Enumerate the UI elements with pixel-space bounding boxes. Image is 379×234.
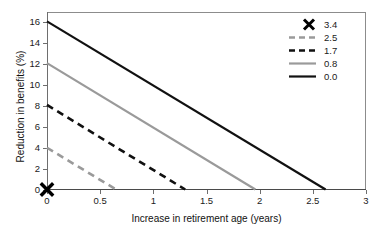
legend-label: 2.5 bbox=[324, 33, 337, 43]
series-line-0.8 bbox=[47, 63, 255, 189]
legend-item[interactable]: 0.0 bbox=[287, 70, 362, 83]
legend-item[interactable]: 2.5 bbox=[287, 31, 362, 44]
legend-x-marker-icon bbox=[287, 18, 317, 31]
series-line-0.0 bbox=[47, 21, 326, 189]
y-axis-title: Reduction in benefits (%) bbox=[15, 17, 26, 197]
legend-line-swatch bbox=[287, 70, 317, 83]
series-line-2.5 bbox=[47, 148, 116, 190]
chart-container: 00.511.522.530246810121416 Increase in r… bbox=[0, 0, 379, 234]
legend-item[interactable]: 0.8 bbox=[287, 57, 362, 70]
legend-line-swatch bbox=[287, 57, 317, 70]
legend-item[interactable]: 1.7 bbox=[287, 44, 362, 57]
legend-label: 0.0 bbox=[324, 72, 337, 82]
x-axis-title: Increase in retirement age (years) bbox=[47, 213, 366, 224]
legend-item[interactable]: 3.4 bbox=[287, 18, 362, 31]
legend-line-swatch bbox=[287, 44, 317, 57]
legend-label: 0.8 bbox=[324, 59, 337, 69]
legend-label: 1.7 bbox=[324, 46, 337, 56]
series-line-1.7 bbox=[47, 105, 185, 190]
legend: 3.42.51.70.80.0 bbox=[287, 18, 362, 83]
series-marker-undefined bbox=[41, 183, 53, 195]
legend-line-swatch bbox=[287, 31, 317, 44]
legend-label: 3.4 bbox=[324, 20, 337, 30]
